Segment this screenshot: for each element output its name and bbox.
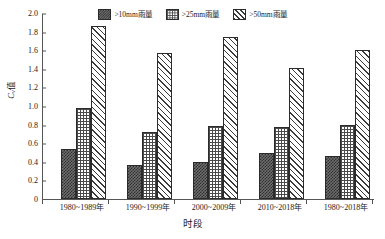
bar-g3-s1: [193, 162, 208, 199]
y-axis-title: Cv值: [4, 64, 16, 116]
bar-g3-s2: [208, 126, 223, 199]
y-tick-label-1-6: 1.6: [28, 47, 38, 55]
x-tick-label-2010-2018: 2010~2018年: [258, 203, 302, 213]
bar-g4-s2: [274, 127, 289, 199]
x-tick-label-2000-2009: 2000~2009年: [192, 203, 236, 213]
plot-area: [42, 14, 374, 200]
x-axis: 1980~1989年 1990~1999年 2000~2009年 2010~20…: [42, 200, 374, 216]
bar-g1-s1: [61, 149, 76, 199]
bar-g2-s2: [142, 132, 157, 199]
bar-g5-s2: [340, 125, 355, 199]
y-tick-label-1-8: 1.8: [28, 29, 38, 37]
y-axis-title-suffix: 值: [6, 81, 16, 90]
x-tick-label-1980-1989: 1980~1989年: [60, 203, 104, 213]
y-tick-label-1-0: 1.0: [28, 103, 38, 111]
x-tick-mark: [174, 200, 175, 204]
y-tick-label-1-2: 1.2: [28, 84, 38, 92]
x-tick-label-1990-1999: 1990~1999年: [126, 203, 170, 213]
x-tick-mark: [372, 200, 373, 204]
bar-g5-s3: [355, 50, 370, 199]
x-tick-mark: [108, 200, 109, 204]
bar-g2-s3: [157, 53, 172, 199]
x-tick-mark: [240, 200, 241, 204]
bar-chart: >10mm雨量 >25mm雨量 >50mm雨量 0 0.2 0.4 0.6 0.…: [0, 0, 385, 239]
y-axis-title-subscript: v: [10, 90, 16, 93]
x-tick-mark: [306, 200, 307, 204]
bar-g5-s1: [325, 156, 340, 199]
y-tick-label-2-0: 2.0: [28, 10, 38, 18]
y-tick-label-0: 0: [34, 196, 38, 204]
x-tick-label-1980-2018: 1980~2018年: [324, 203, 368, 213]
y-tick-label-1-4: 1.4: [28, 66, 38, 74]
bar-g2-s1: [127, 165, 142, 199]
bar-g1-s3: [91, 26, 106, 199]
bar-g1-s2: [76, 108, 91, 199]
y-axis-title-symbol: C: [6, 93, 16, 99]
y-tick-label-0-6: 0.6: [28, 140, 38, 148]
bar-g3-s3: [223, 37, 238, 199]
y-tick-label-0-2: 0.2: [28, 177, 38, 185]
y-tick-label-0-8: 0.8: [28, 122, 38, 130]
x-tick-mark: [42, 200, 43, 204]
bar-g4-s1: [259, 153, 274, 200]
bar-g4-s3: [289, 68, 304, 199]
x-axis-title: 时段: [0, 216, 385, 230]
y-tick-label-0-4: 0.4: [28, 159, 38, 167]
